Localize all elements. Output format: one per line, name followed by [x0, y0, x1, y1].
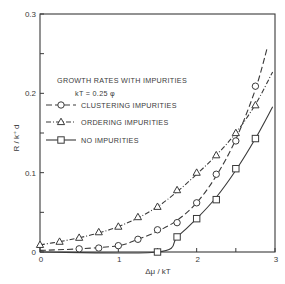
legend-triangle-icon	[57, 118, 64, 124]
circle-marker	[213, 171, 219, 177]
growth-rate-chart: 012300.10.20.3 GROWTH RATES WITH IMPURIT…	[0, 0, 285, 284]
triangle-marker	[193, 169, 200, 175]
legend-title: GROWTH RATES WITH IMPURITIES	[57, 76, 187, 85]
square-marker	[233, 166, 239, 172]
plot-border	[40, 14, 275, 252]
y-tick-label: 0.2	[25, 89, 37, 98]
square-marker	[193, 215, 199, 221]
x-axis-label: Δμ / kT	[145, 267, 171, 276]
legend-circle-icon	[58, 102, 64, 108]
circle-marker	[135, 236, 141, 242]
y-tick-label: 0.1	[25, 169, 37, 178]
triangle-marker	[232, 129, 239, 135]
circle-marker	[193, 200, 199, 206]
y-tick-label: 0	[32, 248, 37, 257]
circle-marker	[96, 245, 102, 251]
square-marker	[252, 135, 258, 141]
y-tick-label: 0.3	[25, 10, 37, 19]
square-marker	[213, 196, 219, 202]
legend-entries	[46, 102, 76, 143]
legend-label-clustering: CLUSTERING IMPURITIES	[81, 101, 177, 110]
legend-label-ordering: ORDERING IMPURITIES	[81, 118, 169, 127]
axis-ticks	[40, 14, 275, 252]
square-marker	[154, 249, 160, 255]
legend-label-none: NO IMPURITIES	[81, 136, 139, 145]
circle-marker	[252, 83, 258, 89]
legend: GROWTH RATES WITH IMPURITIES kT = 0.25 φ…	[46, 76, 187, 145]
x-tick-label: 1	[117, 255, 122, 264]
circle-marker	[76, 246, 82, 252]
circle-marker	[233, 138, 239, 144]
x-tick-label: 0	[39, 255, 44, 264]
square-marker	[174, 234, 180, 240]
triangle-marker	[213, 151, 220, 157]
legend-subtitle: kT = 0.25 φ	[75, 89, 115, 98]
triangle-marker	[95, 228, 102, 234]
circle-marker	[115, 242, 121, 248]
triangle-marker	[154, 203, 161, 209]
circle-marker	[154, 227, 160, 233]
legend-square-icon	[58, 137, 64, 143]
y-axis-label: R / k⁺ d	[12, 124, 21, 151]
circle-marker	[174, 219, 180, 225]
x-tick-label: 2	[195, 255, 200, 264]
triangle-marker	[252, 101, 259, 107]
plot-frame	[40, 14, 275, 252]
x-tick-label: 3	[274, 255, 279, 264]
